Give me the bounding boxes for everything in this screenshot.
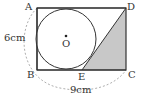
label-d: D xyxy=(127,1,135,12)
label-e: E xyxy=(78,71,85,82)
label-height: 6cm xyxy=(4,32,26,43)
label-o: O xyxy=(62,38,70,49)
label-c: C xyxy=(128,69,136,80)
label-a: A xyxy=(24,1,33,12)
geometry-diagram: A D B C E O 6cm 9cm xyxy=(0,0,145,101)
center-point xyxy=(65,35,68,38)
label-width: 9cm xyxy=(70,84,92,95)
label-b: B xyxy=(27,69,34,80)
